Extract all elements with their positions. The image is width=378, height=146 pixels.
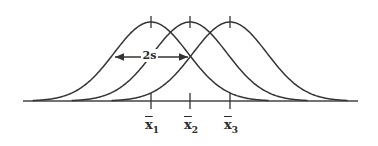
- mean-tick-marks: [151, 16, 230, 109]
- mean-label-x2: x2: [184, 117, 198, 135]
- mean-label-x3: x3: [224, 117, 238, 135]
- spread-label: 2s: [141, 49, 159, 62]
- normal-distributions-diagram: 2s x1x2x3: [0, 0, 378, 146]
- mean-label-x1: x1: [145, 117, 159, 135]
- distribution-curves: [33, 22, 348, 101]
